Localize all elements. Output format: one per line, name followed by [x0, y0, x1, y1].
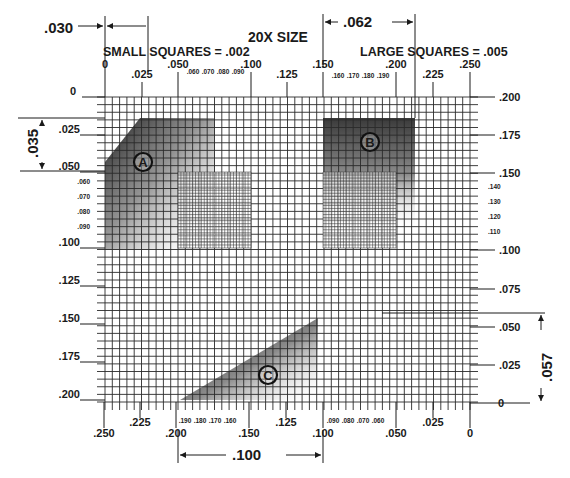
top-axis-minor-label: .070 — [202, 68, 215, 75]
right-axis-label: .175 — [499, 129, 520, 141]
bottom-axis-minor-label: .170 — [209, 417, 222, 424]
marker-b: B — [361, 133, 379, 151]
top-axis-label: .025 — [131, 68, 152, 80]
bottom-axis-minor-label: .070 — [357, 417, 370, 424]
left-axis-minor-label: .090 — [77, 223, 90, 230]
small-squares-note: SMALL SQUARES = .002 — [103, 45, 250, 59]
left-axis-label: .150 — [59, 312, 80, 324]
triangle-c-shape — [180, 318, 318, 400]
small-square-grids — [178, 172, 396, 248]
right-axis-label: .150 — [499, 167, 520, 179]
bottom-axis-label: 0 — [467, 427, 473, 439]
bottom-axis-label: .050 — [385, 427, 406, 439]
top-axis-label: .250 — [459, 58, 480, 70]
bottom-axis-minor-label: .190 — [179, 417, 192, 424]
right-axis-label: .050 — [499, 321, 520, 333]
top-axis-minor-label: .080 — [217, 68, 230, 75]
left-axis-minor-label: .080 — [77, 208, 90, 215]
right-axis-minor-label: .140 — [488, 183, 501, 190]
bottom-axis-label: .200 — [165, 427, 186, 439]
title-20x-size: 20X SIZE — [248, 29, 308, 45]
dim-bottom-label: .100 — [232, 446, 261, 463]
bottom-axis-label: .025 — [422, 416, 443, 428]
top-axis-minor-label: .180 — [362, 72, 375, 79]
bottom-axis-minor-label: .160 — [224, 417, 237, 424]
marker-c: C — [259, 366, 277, 384]
top-axis-minor-label: .170 — [347, 72, 360, 79]
inspection-reticle-diagram: 0.025.050.100.125.150.200.225.250.060.07… — [0, 0, 570, 478]
right-axis-label: .025 — [499, 359, 520, 371]
right-axis-minor-label: .130 — [488, 198, 501, 205]
right-axis-label: .100 — [499, 244, 520, 256]
top-axis-label: .200 — [385, 58, 406, 70]
marker-a-label: A — [138, 155, 148, 170]
left-axis-minor-label: .070 — [77, 193, 90, 200]
bottom-axis-label: .125 — [275, 416, 296, 428]
right-axis-label: .200 — [499, 91, 520, 103]
bottom-axis-minor-label: .060 — [372, 417, 385, 424]
top-axis-label: .050 — [167, 58, 188, 70]
right-axis-label: .075 — [499, 283, 520, 295]
top-axis-minor-label: .190 — [377, 72, 390, 79]
top-axis-label: .225 — [422, 68, 443, 80]
large-squares-note: LARGE SQUARES = .005 — [360, 45, 508, 59]
bottom-axis-minor-label: .080 — [342, 417, 355, 424]
left-axis-label: .175 — [59, 350, 80, 362]
dim-left-label: .035 — [24, 129, 41, 158]
top-axis-minor-label: .090 — [232, 68, 245, 75]
bottom-axis-label: .250 — [93, 427, 114, 439]
dim-top-left-label: .030 — [44, 19, 73, 36]
right-axis-minor-label: .110 — [488, 228, 501, 235]
marker-b-label: B — [365, 135, 374, 150]
bottom-axis-minor-label: .180 — [194, 417, 207, 424]
bottom-axis-label: .225 — [129, 416, 150, 428]
right-axis-label: 0 — [498, 397, 504, 409]
bottom-axis-label: .150 — [238, 427, 259, 439]
bottom-axis-minor-label: .090 — [327, 417, 340, 424]
left-axis-label: .100 — [59, 236, 80, 248]
marker-a: A — [134, 153, 152, 171]
top-axis-minor-label: .160 — [332, 72, 345, 79]
top-axis-minor-label: .060 — [187, 68, 200, 75]
left-axis-minor-label: .060 — [77, 178, 90, 185]
right-axis-minor-label: .120 — [488, 213, 501, 220]
dim-right-label: .057 — [538, 353, 555, 382]
dim-top-right-label: .062 — [343, 13, 372, 30]
left-axis-label: .050 — [59, 160, 80, 172]
left-axis-label: .025 — [59, 123, 80, 135]
marker-c-label: C — [263, 368, 273, 383]
left-axis-label: .200 — [59, 388, 80, 400]
left-axis-label: 0 — [70, 85, 76, 97]
top-axis-label: .125 — [276, 68, 297, 80]
left-axis-label: .125 — [59, 274, 80, 286]
